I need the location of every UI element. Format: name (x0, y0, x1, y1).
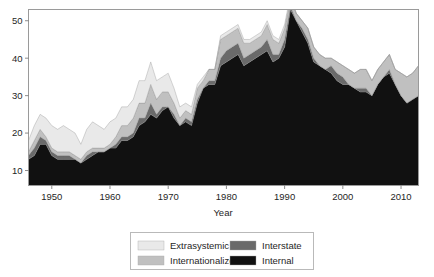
legend-swatch-extrasystemic (138, 241, 164, 250)
x-tick-label: 1990 (274, 191, 295, 202)
legend-label-interstate: Interstate (262, 240, 302, 251)
x-tick-label: 1960 (99, 191, 120, 202)
chart-canvas: 1020304050 1950196019701980199020002010 … (0, 0, 434, 277)
legend-label-extrasystemic: Extrasystemic (170, 240, 229, 251)
x-tick-label: 1970 (158, 191, 179, 202)
y-tick-label: 10 (12, 165, 23, 176)
x-tick-label: 1980 (216, 191, 237, 202)
legend-swatch-internationalized (138, 256, 164, 265)
x-axis-title: Year (213, 207, 232, 218)
stacked-area-chart-figure: 1020304050 1950196019701980199020002010 … (0, 0, 434, 277)
legend-label-internationalized: Internationalized (170, 255, 240, 266)
x-tick-label: 2010 (390, 191, 411, 202)
x-axis-group: 1950196019701980199020002010 (41, 186, 411, 202)
y-tick-label: 40 (12, 53, 23, 64)
y-tick-label: 30 (12, 90, 23, 101)
legend-label-internal: Internal (262, 255, 294, 266)
x-tick-label: 2000 (332, 191, 353, 202)
legend-swatch-interstate (230, 241, 256, 250)
y-tick-label: 50 (12, 15, 23, 26)
y-tick-label: 20 (12, 127, 23, 138)
legend-swatch-internal (230, 256, 256, 265)
y-axis-group: 1020304050 (12, 15, 29, 176)
chart-legend: ExtrasystemicInternationalizedInterstate… (131, 233, 314, 270)
x-tick-label: 1950 (41, 191, 62, 202)
